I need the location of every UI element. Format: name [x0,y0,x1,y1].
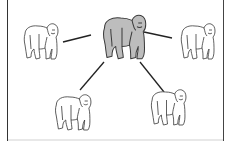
gorilla-icon-bottom-right [151,90,186,125]
gorilla-icon-center [104,15,146,59]
gorilla-icon-left [24,24,58,59]
edge-center-to-bottom-right [140,62,164,92]
edge-center-to-right [144,32,172,38]
gorilla-icon-right [181,24,215,59]
gorilla-network-diagram [0,0,226,141]
gorilla-icon-bottom-left [56,95,91,130]
edge-center-to-bottom-left [80,62,104,90]
node-group [24,15,215,130]
edge-center-to-left [63,35,91,42]
diagram-canvas [0,0,226,141]
